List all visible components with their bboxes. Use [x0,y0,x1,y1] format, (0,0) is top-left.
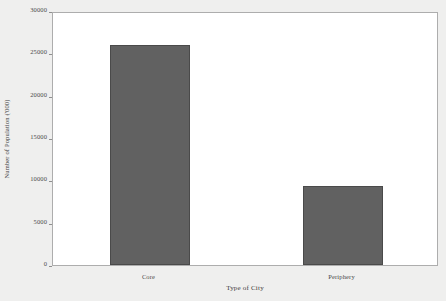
y-axis-tick-label: 20000 [30,91,47,98]
y-axis: 050001000015000200002500030000 [0,12,52,266]
x-axis-title: Type of City [52,284,438,292]
y-axis-tick-label: 25000 [30,48,47,55]
bar-chart: Number of Population ('000) 050001000015… [0,0,446,301]
plot-inner [53,13,437,265]
bar-periphery [303,186,383,265]
y-axis-tick-label: 15000 [30,133,47,140]
y-axis-tick-label: 0 [44,260,47,267]
x-axis-tick-label: Periphery [328,273,355,280]
y-axis-tick-label: 5000 [34,218,47,225]
x-axis-tick-label: Core [142,273,155,280]
x-axis: CorePeriphery [52,266,438,282]
y-axis-tick-label: 10000 [30,175,47,182]
bar-core [110,45,190,265]
y-axis-tick-label: 30000 [30,6,47,13]
plot-area [52,12,438,266]
